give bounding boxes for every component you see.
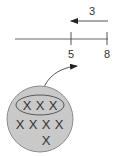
x-mark: X xyxy=(49,98,58,113)
diagram-canvas: 3 5 8 X X X X X X X X xyxy=(0,0,116,156)
tick-label: 5 xyxy=(68,48,74,60)
x-mark: X xyxy=(36,98,45,113)
x-mark: X xyxy=(42,117,51,132)
group-circle: X X X X X X X X xyxy=(7,86,73,152)
number-line: 5 8 xyxy=(15,32,110,60)
x-mark: X xyxy=(23,98,32,113)
arrow-label: 3 xyxy=(89,5,95,17)
x-mark: X xyxy=(29,117,38,132)
subtraction-arrow: 3 xyxy=(71,5,108,21)
x-mark: X xyxy=(55,117,64,132)
x-mark: X xyxy=(16,117,25,132)
x-mark: X xyxy=(42,133,51,148)
tick-label: 8 xyxy=(104,48,110,60)
